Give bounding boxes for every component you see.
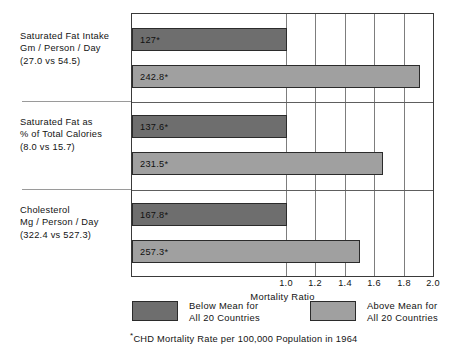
bar-below-cholesterol[interactable]: 167.8* [132,203,287,226]
footnote-text: CHD Mortality Rate per 100,000 Populatio… [133,334,357,344]
row-label-line-3: (27.0 vs 54.5) [20,55,128,67]
row-label-line-1: Saturated Fat Intake [20,30,128,42]
gridline-1.2 [315,14,316,276]
row-label-line-3: (8.0 vs 15.7) [20,141,128,153]
bar-above-cholesterol[interactable]: 257.3* [132,240,360,263]
plot-area: 127* 242.8* 137.6* 231.5* 167.8* 257.3* [131,13,434,277]
gridline-1.8 [404,14,405,276]
chart-figure: Saturated Fat Intake Gm / Person / Day (… [0,0,450,348]
row-label-cholesterol: Cholesterol Mg / Person / Day (322.4 vs … [20,204,128,241]
plot-group-separator-2 [132,190,433,191]
gridline-1.0 [286,14,287,276]
bar-value-label: 231.5* [133,159,168,169]
legend-label-line-2: All 20 Countries [189,312,260,324]
legend-swatch-below-mean [132,301,178,321]
bar-below-saturated-fat-percent[interactable]: 137.6* [132,115,287,138]
row-label-saturated-fat-intake: Saturated Fat Intake Gm / Person / Day (… [20,30,128,67]
bar-above-saturated-fat-intake[interactable]: 242.8* [132,65,420,88]
xtick-1.4: 1.4 [330,278,360,288]
xtick-2.0: 2.0 [418,278,448,288]
row-label-saturated-fat-percent: Saturated Fat as % of Total Calories (8.… [20,116,128,153]
xtick-1.8: 1.8 [389,278,419,288]
xtick-1.6: 1.6 [359,278,389,288]
bar-below-saturated-fat-intake[interactable]: 127* [132,28,287,51]
legend-label-line-2: All 20 Countries [367,312,438,324]
row-label-line-2: Gm / Person / Day [20,42,128,54]
row-label-line-3: (322.4 vs 527.3) [20,229,128,241]
xtick-1.0: 1.0 [271,278,301,288]
bar-value-label: 242.8* [133,72,168,82]
footnote: *CHD Mortality Rate per 100,000 Populati… [130,331,358,344]
group-separator-2 [22,189,131,190]
xtick-1.2: 1.2 [300,278,330,288]
row-label-line-2: Mg / Person / Day [20,216,128,228]
plot-group-separator-1 [132,102,433,103]
bar-value-label: 127* [133,35,160,45]
bar-above-saturated-fat-percent[interactable]: 231.5* [132,152,383,175]
row-label-line-1: Cholesterol [20,204,128,216]
legend-label-below-mean: Below Mean for All 20 Countries [189,300,260,324]
row-label-line-2: % of Total Calories [20,128,128,140]
gridline-1.6 [374,14,375,276]
legend-label-line-1: Above Mean for [367,300,438,312]
legend-label-above-mean: Above Mean for All 20 Countries [367,300,438,324]
bar-value-label: 257.3* [133,247,168,257]
gridline-1.4 [345,14,346,276]
bar-value-label: 137.6* [133,122,168,132]
legend-label-line-1: Below Mean for [189,300,260,312]
group-separator-1 [22,101,131,102]
legend-swatch-above-mean [310,301,356,321]
row-label-line-1: Saturated Fat as [20,116,128,128]
bar-value-label: 167.8* [133,210,168,220]
